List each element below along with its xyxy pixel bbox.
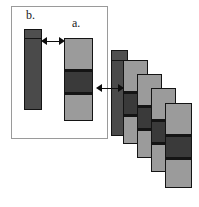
bar-b-segment-body: [25, 39, 41, 109]
cascade-bar-0-segment-cap: [112, 51, 127, 60]
figure-canvas: b. a.: [0, 0, 199, 207]
cascade-bar-4-segment-bottom-light: [166, 160, 191, 187]
bar-b-divider-0: [25, 38, 41, 39]
bar-b-segment-cap: [25, 30, 41, 38]
bar-label-b: b.: [26, 9, 35, 21]
bar-label-a: a.: [72, 17, 80, 29]
cascade-bar-4-segment-dark-band: [166, 137, 191, 157]
arrow-a-to-cascade: [96, 84, 124, 93]
arrow-b-to-a: [41, 37, 65, 46]
arrow-head-right-icon: [118, 84, 124, 92]
cascade-bar-4-divider-1: [166, 157, 191, 160]
bar-a: [64, 38, 93, 121]
bar-a-segment-dark-band: [65, 72, 92, 92]
bar-a-divider-1: [65, 92, 92, 95]
cascade-bar-4-divider-0: [166, 134, 191, 137]
bar-a-segment-top-light: [65, 39, 92, 69]
cascade-bar-4: [165, 103, 192, 188]
cascade-bar-4-segment-top-light: [166, 104, 191, 134]
bar-a-divider-0: [65, 69, 92, 72]
bar-a-segment-bottom-light: [65, 95, 92, 120]
bar-b: [24, 29, 42, 110]
arrow-head-right-icon: [59, 37, 65, 45]
